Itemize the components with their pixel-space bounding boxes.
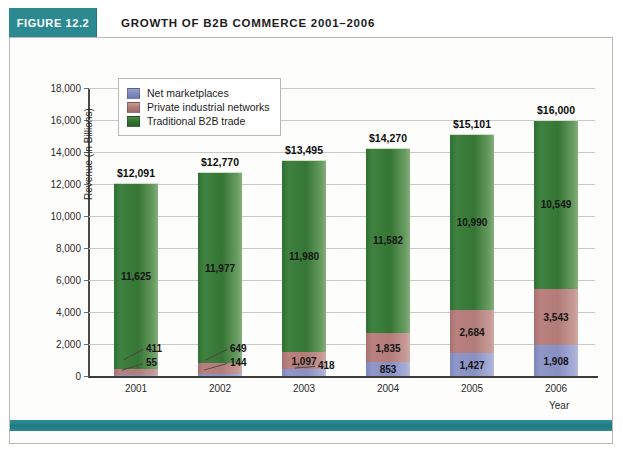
bar-group-2005: 1,4272,68410,990$15,1012005 bbox=[430, 88, 514, 376]
x-axis-tick-label: 2005 bbox=[430, 383, 514, 394]
bar-group-2004: 8531,83511,582$14,2702004 bbox=[346, 88, 430, 376]
stacked-bar[interactable]: 8531,83511,582$14,270 bbox=[366, 148, 410, 376]
y-axis-tick-label: 2,000 bbox=[29, 339, 81, 350]
y-axis-tick-label: 6,000 bbox=[29, 275, 81, 286]
figure-title: GROWTH OF B2B COMMERCE 2001–2006 bbox=[97, 8, 613, 37]
bar-total-label: $13,495 bbox=[272, 144, 336, 156]
bar-callout-label-net-marketplaces: 418 bbox=[318, 360, 335, 371]
legend-label-net-marketplaces: Net marketplaces bbox=[147, 87, 229, 99]
bar-total-label: $14,270 bbox=[356, 132, 420, 144]
figure-header: FIGURE 12.2 GROWTH OF B2B COMMERCE 2001–… bbox=[9, 8, 613, 38]
bar-callout-label-net-marketplaces: 144 bbox=[230, 357, 247, 368]
bar-value-label-traditional-b2b-trade: 10,549 bbox=[534, 199, 578, 210]
bar-value-label-traditional-b2b-trade: 11,582 bbox=[366, 235, 410, 246]
y-axis-title: Revenue (in Billions) bbox=[83, 108, 94, 200]
bar-total-label: $12,091 bbox=[104, 167, 168, 179]
y-axis-tick bbox=[84, 88, 89, 89]
bar-value-label-traditional-b2b-trade: 11,625 bbox=[114, 270, 158, 281]
bar-callout-label-net-marketplaces: 55 bbox=[146, 357, 157, 368]
y-axis-tick-label: 12,000 bbox=[29, 179, 81, 190]
y-axis-tick bbox=[84, 312, 89, 313]
legend-swatch-icon-net-marketplaces bbox=[127, 88, 140, 99]
x-axis-line bbox=[88, 376, 598, 378]
legend-label-traditional-b2b-trade: Traditional B2B trade bbox=[147, 115, 245, 127]
bar-segment-net-marketplaces[interactable] bbox=[198, 374, 242, 376]
bar-total-label: $15,101 bbox=[440, 118, 504, 130]
stacked-bar[interactable]: 1,9083,54310,549$16,000 bbox=[534, 120, 578, 376]
x-axis-tick-label: 2006 bbox=[514, 383, 598, 394]
bar-value-label-net-marketplaces: 853 bbox=[366, 364, 410, 375]
bar-value-label-net-marketplaces: 1,427 bbox=[450, 359, 494, 370]
x-axis-title: Year bbox=[549, 400, 569, 411]
stacked-bar[interactable]: 1,09711,980$13,495 bbox=[282, 160, 326, 376]
bar-callout-label-private-industrial-networks: 649 bbox=[230, 343, 247, 354]
x-axis-tick-label: 2003 bbox=[262, 383, 346, 394]
bar-value-label-traditional-b2b-trade: 11,977 bbox=[198, 262, 242, 273]
chart-legend: Net marketplaces Private industrial netw… bbox=[118, 78, 281, 136]
bar-value-label-net-marketplaces: 1,908 bbox=[534, 355, 578, 366]
y-axis-tick bbox=[84, 344, 89, 345]
y-axis-tick-label: 0 bbox=[29, 371, 81, 382]
bar-total-label: $12,770 bbox=[188, 156, 252, 168]
y-axis-tick-label: 16,000 bbox=[29, 115, 81, 126]
y-axis-tick-label: 18,000 bbox=[29, 83, 81, 94]
chart-container: 02,0004,0006,0008,00010,00012,00014,0001… bbox=[9, 39, 613, 419]
bar-value-label-traditional-b2b-trade: 10,990 bbox=[450, 217, 494, 228]
bar-segment-private-industrial-networks[interactable] bbox=[114, 369, 158, 376]
y-axis-tick-label: 14,000 bbox=[29, 147, 81, 158]
x-axis-tick-label: 2004 bbox=[346, 383, 430, 394]
y-axis-tick bbox=[84, 280, 89, 281]
x-axis-tick-label: 2002 bbox=[178, 383, 262, 394]
y-axis-tick-label: 10,000 bbox=[29, 211, 81, 222]
y-axis-tick bbox=[84, 248, 89, 249]
legend-swatch-icon-private-industrial-networks bbox=[127, 102, 140, 113]
legend-label-private-industrial-networks: Private industrial networks bbox=[147, 101, 270, 113]
legend-item-private-industrial-networks: Private industrial networks bbox=[127, 101, 270, 113]
figure-bottom-rule bbox=[10, 420, 612, 431]
y-axis-tick-label: 4,000 bbox=[29, 307, 81, 318]
stacked-bar[interactable]: 1,4272,68410,990$15,101 bbox=[450, 134, 494, 376]
legend-item-net-marketplaces: Net marketplaces bbox=[127, 87, 270, 99]
legend-swatch-icon-traditional-b2b-trade bbox=[127, 116, 140, 127]
plot-area: 02,0004,0006,0008,00010,00012,00014,0001… bbox=[89, 88, 595, 376]
x-axis-tick-label: 2001 bbox=[94, 383, 178, 394]
bar-total-label: $16,000 bbox=[524, 104, 588, 116]
y-axis-tick bbox=[84, 376, 89, 377]
bar-value-label-private-industrial-networks: 2,684 bbox=[450, 326, 494, 337]
bar-group-2006: 1,9083,54310,549$16,0002006 bbox=[514, 88, 598, 376]
y-axis-tick-label: 8,000 bbox=[29, 243, 81, 254]
figure-number-badge: FIGURE 12.2 bbox=[9, 8, 97, 37]
y-axis-tick-labels: 02,0004,0006,0008,00010,00012,00014,0001… bbox=[29, 88, 81, 376]
bar-value-label-traditional-b2b-trade: 11,980 bbox=[282, 250, 326, 261]
bar-value-label-private-industrial-networks: 3,543 bbox=[534, 312, 578, 323]
bar-callout-label-private-industrial-networks: 411 bbox=[146, 343, 162, 354]
legend-item-traditional-b2b-trade: Traditional B2B trade bbox=[127, 115, 270, 127]
y-axis-tick bbox=[84, 216, 89, 217]
bar-value-label-private-industrial-networks: 1,835 bbox=[366, 342, 410, 353]
